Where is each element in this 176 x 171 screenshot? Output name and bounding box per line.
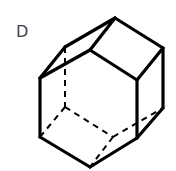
edge-bottom_apex-left_bottom <box>40 137 90 167</box>
hidden-edge-hidden_back-left_bottom <box>40 107 65 137</box>
edge-front_right_bottom-bottom_apex <box>90 138 137 167</box>
edge-top_apex-inner_top <box>90 18 115 50</box>
edge-top_apex-right_top <box>115 18 163 48</box>
hidden-edge-hidden_back-hidden_bottom <box>65 107 113 137</box>
edge-inner_top-front_right_top <box>90 50 137 80</box>
edge-front_right_top-right_top <box>137 48 163 80</box>
polyhedron-diagram <box>0 0 176 171</box>
visible-edges <box>40 18 163 167</box>
edge-left_top-back_upper_left <box>40 47 65 78</box>
hidden-edge-hidden_bottom-bottom_apex <box>90 137 113 167</box>
edge-back_upper_left-top_apex <box>65 18 115 47</box>
edge-right_bottom-front_right_bottom <box>137 108 163 138</box>
